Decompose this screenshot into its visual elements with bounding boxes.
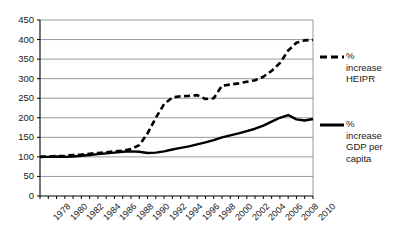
legend-label-line: increase — [346, 62, 402, 74]
y-axis-tick-label: 50 — [4, 171, 34, 181]
y-axis-tick-label: 150 — [4, 132, 34, 142]
y-axis-tick-label: 300 — [4, 74, 34, 84]
legend-label-line: capita — [346, 153, 402, 165]
legend-label-line: % — [346, 50, 402, 62]
series-line-gdp-per-capita — [40, 115, 313, 157]
legend-entry-heipr: %increaseHEIPR — [346, 50, 402, 85]
chart-container: 450400350300250200150100500 197819801982… — [0, 0, 402, 242]
y-axis-tick-label: 200 — [4, 113, 34, 123]
y-axis-tick-label: 400 — [4, 35, 34, 45]
legend-entry-gdp-per-capita: %increaseGDP percapita — [346, 118, 402, 164]
legend-label-line: GDP per — [346, 141, 402, 153]
legend-label-line: HEIPR — [346, 73, 402, 85]
legend-label-line: % — [346, 118, 402, 130]
y-axis-tick-label: 0 — [4, 191, 34, 201]
legend-label-line: increase — [346, 130, 402, 142]
y-axis-tick-label: 350 — [4, 54, 34, 64]
y-axis-tick-label: 250 — [4, 93, 34, 103]
y-axis-tick-label: 100 — [4, 152, 34, 162]
y-axis-tick-label: 450 — [4, 15, 34, 25]
